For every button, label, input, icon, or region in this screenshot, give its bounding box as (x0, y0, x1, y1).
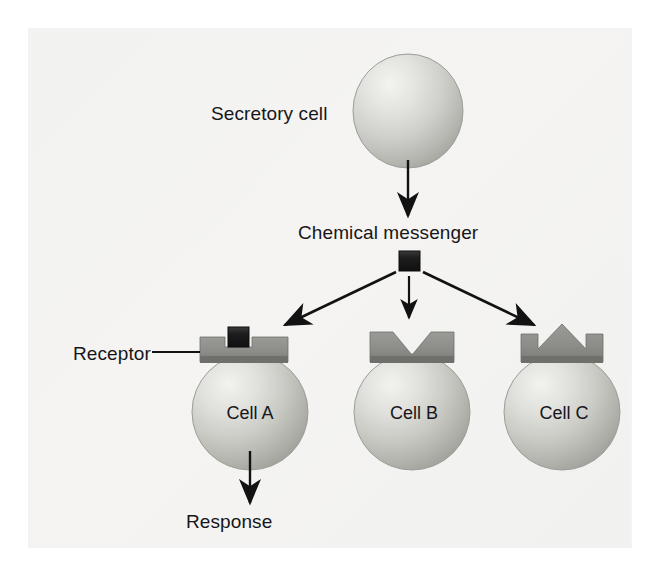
messenger-to-cell-a-arrow (285, 272, 396, 325)
figure-canvas: Secretory cell Chemical messenger Recept… (0, 0, 663, 567)
messenger-to-cell-c-arrow (423, 272, 534, 325)
chemical-messenger-label: Chemical messenger (298, 222, 478, 244)
secretory-cell (353, 54, 463, 168)
cell-b-receptor (370, 332, 454, 363)
secretory-cell-label: Secretory cell (211, 103, 328, 125)
cell-a-label: Cell A (190, 403, 310, 424)
cell-c (504, 324, 620, 470)
response-label: Response (186, 511, 272, 533)
cell-c-label: Cell C (505, 403, 623, 424)
cell-c-receptor (521, 324, 603, 363)
receptor-label: Receptor (73, 343, 151, 365)
diagram-graphics (0, 0, 663, 567)
cell-b (354, 332, 470, 470)
cell-a (192, 327, 308, 470)
chemical-messenger-square (399, 251, 420, 271)
cell-a-bound-messenger (228, 327, 249, 347)
cell-b-label: Cell B (355, 403, 473, 424)
